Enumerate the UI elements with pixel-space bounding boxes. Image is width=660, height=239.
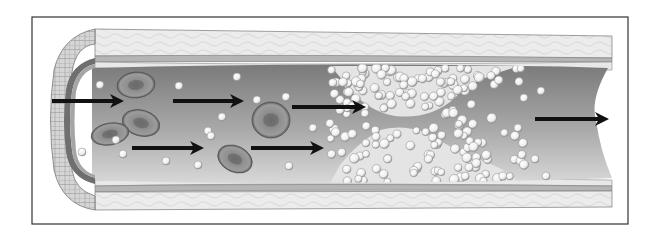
platelet xyxy=(331,128,340,137)
platelet xyxy=(386,91,395,100)
platelet xyxy=(517,65,524,72)
platelet xyxy=(393,130,401,138)
platelet xyxy=(454,164,462,172)
platelet xyxy=(362,150,369,157)
platelet xyxy=(402,93,410,101)
platelet xyxy=(449,108,459,118)
platelet xyxy=(343,165,351,173)
platelet xyxy=(410,169,418,177)
platelet xyxy=(542,172,550,180)
platelet xyxy=(413,127,420,134)
vessel-diagram xyxy=(0,0,660,239)
platelet xyxy=(487,113,497,123)
platelet xyxy=(422,128,430,136)
platelet xyxy=(469,142,479,152)
platelet xyxy=(462,153,472,163)
platelet xyxy=(447,78,455,86)
platelet xyxy=(418,74,427,83)
platelet xyxy=(96,81,104,89)
platelet xyxy=(506,173,513,180)
platelet xyxy=(464,66,472,74)
platelet xyxy=(380,139,390,149)
platelet xyxy=(375,92,383,100)
platelet xyxy=(519,160,528,169)
platelet xyxy=(441,65,449,73)
platelet xyxy=(387,99,397,109)
platelet xyxy=(207,132,215,140)
platelet xyxy=(384,155,392,163)
platelet xyxy=(218,113,226,121)
platelet xyxy=(424,155,432,163)
platelet xyxy=(420,92,428,100)
platelet xyxy=(348,130,357,139)
platelet xyxy=(327,150,335,158)
platelet xyxy=(519,139,528,148)
platelet xyxy=(194,161,202,169)
platelet xyxy=(429,92,438,101)
platelet xyxy=(448,92,456,100)
platelet xyxy=(482,150,491,159)
platelet xyxy=(380,104,388,112)
platelet xyxy=(501,129,509,137)
platelet xyxy=(457,64,465,72)
red-blood-cell xyxy=(252,102,290,138)
platelet xyxy=(355,175,362,182)
platelet xyxy=(344,88,353,97)
platelet xyxy=(422,103,429,110)
platelet xyxy=(495,76,504,85)
platelet xyxy=(518,151,526,159)
platelet xyxy=(285,162,293,170)
platelet xyxy=(429,123,439,133)
platelet xyxy=(438,131,446,139)
platelet xyxy=(499,172,507,180)
platelet xyxy=(510,131,519,140)
platelet xyxy=(328,66,336,74)
platelet xyxy=(112,136,120,144)
platelet xyxy=(329,79,337,87)
platelet xyxy=(400,81,408,89)
platelet xyxy=(78,148,86,156)
platelet xyxy=(233,73,241,81)
platelet xyxy=(468,120,477,129)
platelet xyxy=(282,93,290,101)
platelet xyxy=(465,163,473,171)
platelet xyxy=(429,134,437,142)
platelet xyxy=(438,169,445,176)
platelet xyxy=(406,141,415,150)
platelet xyxy=(309,124,317,132)
platelet xyxy=(531,155,539,163)
platelet xyxy=(358,64,368,74)
platelet xyxy=(461,172,469,180)
platelet xyxy=(467,100,476,109)
platelet xyxy=(377,70,386,79)
platelet xyxy=(379,170,388,179)
platelet xyxy=(339,78,348,87)
platelet xyxy=(487,72,495,80)
platelet xyxy=(453,85,462,94)
platelet xyxy=(520,94,528,102)
platelet xyxy=(437,78,445,86)
platelet xyxy=(372,141,380,149)
platelet xyxy=(372,133,380,141)
platelet xyxy=(372,165,381,174)
platelet xyxy=(362,122,370,130)
platelet xyxy=(474,73,484,83)
platelet xyxy=(460,75,469,84)
platelet xyxy=(361,109,369,117)
platelet xyxy=(455,120,462,127)
platelet xyxy=(407,77,417,87)
platelet xyxy=(356,80,364,88)
platelet xyxy=(338,148,346,156)
platelet xyxy=(119,150,127,158)
platelet xyxy=(362,139,370,147)
platelet xyxy=(383,78,391,86)
platelet xyxy=(468,82,477,91)
platelet xyxy=(350,154,360,164)
platelet xyxy=(514,124,522,132)
platelet xyxy=(175,82,183,90)
platelet xyxy=(162,157,170,165)
platelet xyxy=(454,129,463,138)
platelet xyxy=(515,78,523,86)
platelet xyxy=(370,84,379,93)
platelet xyxy=(537,87,545,95)
